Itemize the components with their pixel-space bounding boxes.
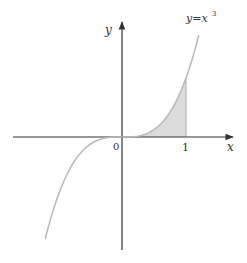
x-axis-label: x: [227, 140, 234, 154]
origin-label: 0: [113, 141, 119, 152]
curve-equation-exponent: 3: [212, 10, 216, 18]
tick-label-1: 1: [182, 141, 189, 154]
curve-equation-label: y=x 3: [185, 10, 216, 25]
curve-equation-text: y=x: [185, 12, 208, 25]
y-axis-label: y: [104, 23, 112, 37]
shaded-area-region: [122, 78, 186, 137]
cubic-function-diagram: y x 0 1 y=x 3: [0, 0, 247, 263]
